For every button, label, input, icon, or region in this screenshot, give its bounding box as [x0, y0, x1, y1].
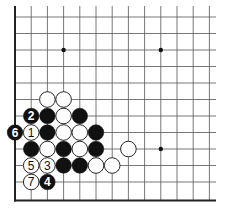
black-stone — [72, 108, 88, 124]
black-stone — [56, 141, 72, 157]
move-number-label: 1 — [28, 126, 35, 140]
white-stone — [72, 141, 88, 157]
stone-disc — [88, 158, 104, 174]
black-stone — [88, 125, 104, 141]
black-stone: 2 — [23, 108, 39, 124]
star-point — [159, 147, 163, 151]
white-stone — [40, 92, 56, 108]
star-point — [61, 48, 65, 52]
stone-disc — [88, 141, 104, 157]
black-stone — [56, 158, 72, 174]
stone-disc — [40, 108, 56, 124]
star-point — [159, 48, 163, 52]
stone-disc — [56, 92, 72, 108]
white-stone: 5 — [23, 158, 39, 174]
black-stone — [88, 141, 104, 157]
black-stone — [40, 125, 56, 141]
stone-disc — [72, 141, 88, 157]
white-stone — [56, 108, 72, 124]
move-number-label: 5 — [28, 159, 35, 173]
move-number-label: 2 — [28, 109, 35, 123]
move-number-label: 6 — [12, 126, 19, 140]
white-stone — [56, 125, 72, 141]
move-number-label: 7 — [28, 175, 35, 189]
stone-disc — [56, 125, 72, 141]
white-stone — [40, 141, 56, 157]
black-stone: 6 — [7, 125, 23, 141]
stone-disc — [104, 158, 120, 174]
stone-disc — [40, 141, 56, 157]
stone-disc — [72, 125, 88, 141]
black-stone — [40, 108, 56, 124]
stones-layer: 2615374 — [7, 92, 136, 190]
white-stone — [121, 141, 137, 157]
stone-disc — [40, 125, 56, 141]
stone-disc — [88, 125, 104, 141]
stone-disc — [121, 141, 137, 157]
white-stone: 3 — [40, 158, 56, 174]
stone-disc — [23, 141, 39, 157]
white-stone — [104, 158, 120, 174]
stone-disc — [40, 92, 56, 108]
stone-disc — [72, 158, 88, 174]
stone-disc — [56, 108, 72, 124]
white-stone — [72, 125, 88, 141]
go-board-diagram: 2615374 — [0, 0, 226, 209]
black-stone — [23, 141, 39, 157]
stone-disc — [56, 141, 72, 157]
white-stone — [56, 92, 72, 108]
black-stone — [72, 158, 88, 174]
white-stone: 1 — [23, 125, 39, 141]
move-number-label: 3 — [44, 159, 51, 173]
stone-disc — [56, 158, 72, 174]
stone-disc — [72, 108, 88, 124]
black-stone: 4 — [40, 174, 56, 190]
white-stone — [88, 158, 104, 174]
move-number-label: 4 — [44, 175, 51, 189]
white-stone: 7 — [23, 174, 39, 190]
